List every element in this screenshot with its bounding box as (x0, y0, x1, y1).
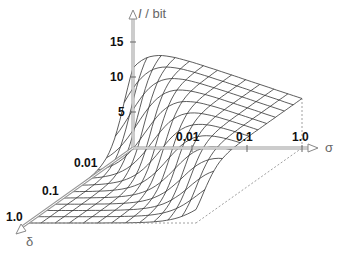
sigma-tick-0.1: 0.1 (236, 130, 253, 144)
delta-tick-0.01: 0.01 (74, 156, 98, 170)
mesh-line (182, 94, 288, 217)
delta-axis-label: δ (26, 234, 33, 249)
z-axis-arrow-icon (129, 10, 137, 19)
mesh-line (27, 68, 133, 223)
mesh-line (115, 79, 284, 137)
z-axis-label: I / bit (138, 6, 167, 21)
surface-mesh (27, 56, 302, 224)
sigma-axis-arrow-icon (308, 144, 318, 152)
z-tick-10: 10 (110, 70, 124, 84)
sigma-axis-label: σ (325, 140, 333, 155)
mesh-line (133, 56, 302, 99)
sigma-axis (133, 144, 318, 152)
delta-tick-0.1: 0.1 (42, 184, 59, 198)
z-tick-15: 15 (110, 35, 124, 49)
surface-plot: 15 10 5 I / bit 0.01 0.1 1.0 σ 0.01 0.1 … (0, 0, 340, 256)
sigma-tick-1.0: 1.0 (292, 130, 309, 144)
sigma-tick-0.01: 0.01 (176, 130, 200, 144)
delta-tick-1.0: 1.0 (6, 210, 23, 224)
z-tick-5: 5 (118, 105, 125, 119)
